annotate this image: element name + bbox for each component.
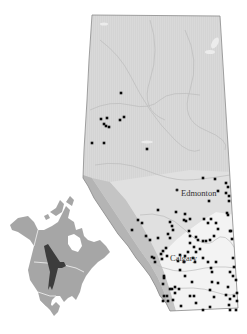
sample-point — [236, 300, 239, 303]
sample-point — [231, 238, 234, 241]
alberta-distribution-map: Edmonton Calgary — [0, 0, 247, 334]
sample-point — [189, 218, 192, 221]
sample-point — [106, 117, 109, 120]
sample-point — [184, 213, 187, 216]
sample-point — [141, 222, 144, 225]
inset-arctic-islands — [44, 196, 74, 220]
sample-point — [175, 211, 178, 214]
sample-point — [162, 250, 165, 253]
sample-point — [225, 294, 228, 297]
sample-point — [166, 295, 169, 298]
sample-point — [202, 177, 205, 180]
sample-point — [209, 289, 212, 292]
sample-point — [230, 230, 233, 233]
city-edmonton: Edmonton — [175, 188, 217, 198]
sample-point — [217, 282, 220, 285]
lake — [205, 50, 215, 54]
sample-point — [215, 222, 218, 225]
sample-point — [169, 237, 172, 240]
sample-point — [232, 257, 235, 260]
sample-point — [179, 269, 182, 272]
sample-point — [205, 240, 208, 243]
alberta-province — [80, 10, 245, 315]
sample-point — [100, 118, 103, 121]
sample-point — [161, 258, 164, 261]
sample-point — [228, 304, 231, 307]
sample-point — [180, 305, 183, 308]
sample-point — [184, 275, 187, 278]
sample-point — [211, 271, 214, 274]
sample-point — [202, 309, 205, 312]
sample-point — [151, 256, 154, 259]
sample-point — [195, 302, 198, 305]
sample-point — [195, 236, 198, 239]
sample-point — [166, 255, 169, 258]
sample-point — [178, 288, 181, 291]
lake — [141, 141, 153, 144]
sample-point — [236, 292, 239, 295]
sample-point — [103, 142, 106, 145]
sample-point — [162, 300, 165, 303]
sample-point — [154, 261, 157, 264]
sample-point — [215, 261, 218, 264]
sample-point — [171, 225, 174, 228]
sample-point — [208, 200, 211, 203]
sample-point — [202, 240, 205, 243]
sample-point — [193, 295, 196, 298]
sample-point — [167, 300, 170, 303]
sample-point — [157, 209, 160, 212]
sample-point — [137, 219, 140, 222]
sample-point — [163, 295, 166, 298]
sample-point — [202, 257, 205, 260]
sample-point — [233, 295, 236, 298]
sample-point — [207, 222, 210, 225]
sample-point — [228, 195, 231, 198]
sample-point — [171, 288, 174, 291]
sample-point — [174, 292, 177, 295]
sample-point — [163, 277, 166, 280]
sample-point — [207, 261, 210, 264]
sample-point — [213, 296, 216, 299]
city-marker-icon — [175, 188, 179, 192]
lake — [100, 23, 108, 26]
sample-point — [197, 239, 200, 242]
sample-point — [225, 192, 228, 195]
sample-point — [162, 283, 165, 286]
sample-point — [185, 220, 188, 223]
sample-point — [214, 178, 217, 181]
sample-point — [229, 271, 232, 274]
sample-point — [227, 286, 230, 289]
sample-point — [145, 235, 148, 238]
sample-point — [235, 279, 238, 282]
sample-point — [227, 186, 230, 189]
sample-point — [210, 218, 213, 221]
sample-point — [213, 235, 216, 238]
sample-point — [165, 247, 168, 250]
sample-point — [217, 228, 220, 231]
city-calgary: Calgary — [170, 253, 198, 263]
sample-point — [120, 92, 123, 95]
sample-point — [167, 233, 170, 236]
sample-point — [131, 229, 134, 232]
sample-point — [149, 239, 152, 242]
sample-point — [203, 218, 206, 221]
north-america-inset — [10, 196, 110, 316]
sample-point — [119, 119, 122, 122]
sample-point — [146, 148, 149, 151]
sample-point — [172, 229, 175, 232]
sample-point — [233, 266, 236, 269]
sample-point — [227, 214, 230, 217]
sample-point — [209, 239, 212, 242]
sample-point — [191, 281, 194, 284]
sample-point — [199, 248, 202, 251]
sample-point — [157, 237, 160, 240]
sample-point — [193, 246, 196, 249]
sample-point — [189, 235, 192, 238]
sample-point — [235, 309, 238, 312]
sample-point — [229, 309, 232, 312]
sample-point — [189, 242, 192, 245]
sample-point — [217, 190, 220, 193]
sample-point — [232, 275, 235, 278]
sample-point — [108, 126, 111, 129]
inset-landmass — [10, 206, 110, 308]
